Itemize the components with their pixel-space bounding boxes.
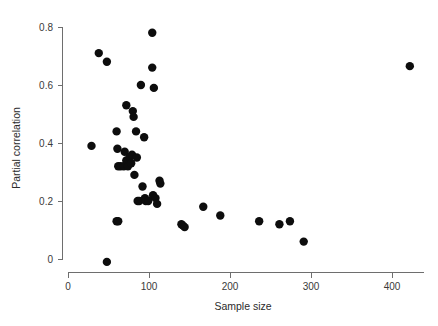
- data-point: [103, 258, 111, 266]
- data-point: [137, 81, 145, 89]
- data-point: [114, 217, 122, 225]
- x-tick-label: 200: [222, 281, 239, 292]
- y-tick-label: 0.4: [39, 138, 53, 149]
- x-tick-label: 300: [303, 281, 320, 292]
- data-point: [156, 179, 164, 187]
- data-point: [216, 211, 224, 219]
- y-tick-label: 0: [47, 254, 53, 265]
- data-point: [199, 203, 207, 211]
- x-tick-label: 0: [65, 281, 71, 292]
- data-point: [138, 182, 146, 190]
- x-axis-title: Sample size: [214, 300, 271, 312]
- data-point: [180, 223, 188, 231]
- data-point: [275, 220, 283, 228]
- partial-correlation-axis: 00.20.40.60.8: [39, 22, 62, 265]
- data-point: [132, 127, 140, 135]
- data-point: [140, 133, 148, 141]
- data-point: [95, 49, 103, 57]
- plot-canvas: 00.20.40.60.8 0100200300400 Sample size …: [0, 0, 438, 326]
- data-point: [255, 217, 263, 225]
- data-point: [129, 113, 137, 121]
- scatter-plot-figure: 00.20.40.60.8 0100200300400 Sample size …: [0, 0, 438, 326]
- y-tick-label: 0.8: [39, 22, 53, 33]
- data-point: [150, 84, 158, 92]
- data-points-layer: [87, 29, 414, 266]
- data-point: [103, 58, 111, 66]
- data-point: [112, 127, 120, 135]
- data-point: [300, 237, 308, 245]
- data-point: [286, 217, 294, 225]
- data-point: [148, 29, 156, 37]
- data-point: [87, 142, 95, 150]
- x-tick-label: 400: [384, 281, 401, 292]
- sample-size-axis: 0100200300400: [65, 273, 424, 293]
- x-tick-label: 100: [141, 281, 158, 292]
- data-point: [133, 153, 141, 161]
- y-axis-title: Partial correlation: [10, 107, 22, 189]
- data-point: [130, 171, 138, 179]
- data-point: [406, 62, 414, 70]
- data-point: [122, 101, 130, 109]
- data-point: [153, 200, 161, 208]
- y-tick-label: 0.2: [39, 196, 53, 207]
- data-point: [148, 63, 156, 71]
- data-point: [113, 145, 121, 153]
- y-tick-label: 0.6: [39, 80, 53, 91]
